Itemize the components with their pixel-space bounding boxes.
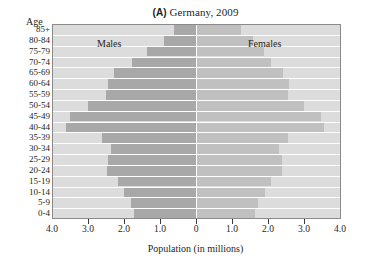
population-pyramid-figure: (A) Germany, 2009 Age Males Females 85+8… xyxy=(0,0,391,268)
y-tick-label: 70-74 xyxy=(4,57,50,68)
male-bar xyxy=(106,89,196,100)
y-tick-label: 40-44 xyxy=(4,122,50,133)
x-tick-label: 2.0 xyxy=(253,224,283,234)
x-tick-label: 4.0 xyxy=(325,224,355,234)
female-bar xyxy=(197,89,288,100)
y-tick-label: 80-84 xyxy=(4,35,50,46)
chart-title: (A) Germany, 2009 xyxy=(0,6,391,18)
female-bar xyxy=(197,187,265,198)
y-axis-tick-labels: 85+80-8475-7970-7465-6960-6455-5950-5445… xyxy=(0,24,50,219)
male-bar xyxy=(124,187,196,198)
female-bar xyxy=(197,122,324,133)
female-bar xyxy=(197,132,288,143)
male-bar xyxy=(147,46,196,57)
y-tick-label: 85+ xyxy=(4,24,50,35)
male-bar xyxy=(174,24,196,35)
y-tick-label: 55-59 xyxy=(4,89,50,100)
male-bar xyxy=(108,154,196,165)
y-tick-label: 75-79 xyxy=(4,46,50,57)
female-bar xyxy=(197,57,271,68)
male-bar xyxy=(132,57,196,68)
female-bar xyxy=(197,154,282,165)
y-tick-label: 20-24 xyxy=(4,165,50,176)
female-bar xyxy=(197,35,253,46)
center-axis-line xyxy=(196,24,197,219)
plot-area: Males Females xyxy=(52,24,341,219)
male-bar xyxy=(107,165,196,176)
y-tick-label: 30-34 xyxy=(4,143,50,154)
chart-title-text: Germany, 2009 xyxy=(167,6,239,18)
male-bar xyxy=(108,78,196,89)
y-tick-label: 10-14 xyxy=(4,187,50,198)
male-bar xyxy=(88,100,196,111)
y-tick-label: 65-69 xyxy=(4,67,50,78)
female-bar xyxy=(197,24,241,35)
chart-panel-tag: (A) xyxy=(152,7,166,18)
y-tick-label: 0-4 xyxy=(4,208,50,219)
male-bar xyxy=(70,111,196,122)
male-bar xyxy=(114,67,196,78)
y-tick-label: 45-49 xyxy=(4,111,50,122)
male-bar xyxy=(134,208,196,219)
x-tick-label: 1.0 xyxy=(217,224,247,234)
x-tick-label: 3.0 xyxy=(289,224,319,234)
males-series-label: Males xyxy=(97,38,121,49)
y-tick-label: 35-39 xyxy=(4,132,50,143)
female-bar xyxy=(197,100,304,111)
x-tick-label: 2.0 xyxy=(109,224,139,234)
female-bar xyxy=(197,176,271,187)
y-tick-label: 5-9 xyxy=(4,197,50,208)
female-bar xyxy=(197,67,283,78)
female-bar xyxy=(197,197,258,208)
female-bar xyxy=(197,165,282,176)
females-series-label: Females xyxy=(248,38,281,49)
female-bar xyxy=(197,78,289,89)
female-bar xyxy=(197,143,279,154)
male-bar xyxy=(118,176,196,187)
x-tick-label: 1.0 xyxy=(145,224,175,234)
male-bar xyxy=(102,132,196,143)
x-axis-title: Population (in millions) xyxy=(0,243,391,254)
female-bar xyxy=(197,111,321,122)
x-tick-label: 4.0 xyxy=(37,224,67,234)
male-bar xyxy=(111,143,196,154)
x-tick-label: 3.0 xyxy=(73,224,103,234)
male-bar xyxy=(164,35,196,46)
male-bar xyxy=(66,122,196,133)
x-tick-label: 0 xyxy=(181,224,211,234)
male-bar xyxy=(131,197,196,208)
y-tick-label: 25-29 xyxy=(4,154,50,165)
y-tick-label: 60-64 xyxy=(4,78,50,89)
y-tick-label: 15-19 xyxy=(4,176,50,187)
y-tick-label: 50-54 xyxy=(4,100,50,111)
female-bar xyxy=(197,208,255,219)
